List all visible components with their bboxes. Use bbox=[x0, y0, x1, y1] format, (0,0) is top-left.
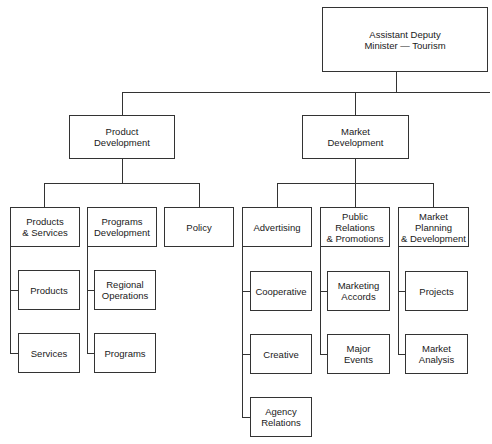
node-market-planning: Market Planning & Development bbox=[398, 207, 469, 247]
node-marketing-accords: Marketing Accords bbox=[327, 271, 390, 311]
connector bbox=[87, 247, 88, 353]
connector bbox=[242, 247, 243, 417]
connector bbox=[44, 183, 199, 184]
node-market-analysis: Market Analysis bbox=[405, 334, 468, 374]
connector bbox=[242, 417, 250, 418]
node-market-development: Market Development bbox=[302, 115, 409, 159]
connector bbox=[44, 183, 45, 207]
connector bbox=[242, 291, 250, 292]
connector bbox=[398, 291, 405, 292]
connector bbox=[355, 92, 356, 115]
connector bbox=[10, 247, 11, 353]
connector bbox=[122, 159, 123, 183]
node-services: Services bbox=[18, 333, 80, 373]
node-cooperative: Cooperative bbox=[250, 271, 312, 311]
node-projects: Projects bbox=[405, 271, 468, 311]
node-policy: Policy bbox=[164, 207, 234, 247]
node-major-events: Major Events bbox=[327, 334, 390, 374]
connector bbox=[320, 354, 327, 355]
connector bbox=[87, 353, 94, 354]
connector bbox=[320, 247, 321, 354]
node-products-services: Products & Services bbox=[10, 207, 80, 247]
connector bbox=[122, 92, 490, 93]
connector bbox=[320, 291, 327, 292]
connector bbox=[277, 183, 278, 207]
node-agency-relations: Agency Relations bbox=[250, 397, 312, 437]
connector bbox=[398, 247, 399, 354]
connector bbox=[242, 354, 250, 355]
connector bbox=[122, 92, 123, 115]
connector bbox=[433, 183, 434, 207]
connector bbox=[398, 354, 405, 355]
node-product-development: Product Development bbox=[69, 115, 175, 159]
node-advertising: Advertising bbox=[242, 207, 312, 247]
node-programs-development: Programs Development bbox=[87, 207, 157, 247]
connector bbox=[277, 183, 433, 184]
node-programs: Programs bbox=[94, 333, 156, 373]
connector bbox=[87, 290, 94, 291]
connector bbox=[199, 183, 200, 207]
node-regional-operations: Regional Operations bbox=[94, 270, 156, 310]
node-public-relations: Public Relations & Promotions bbox=[320, 207, 390, 247]
connector bbox=[10, 353, 18, 354]
connector bbox=[396, 72, 397, 92]
node-products: Products bbox=[18, 270, 80, 310]
node-assistant-deputy-minister: Assistant Deputy Minister — Tourism bbox=[322, 7, 488, 72]
connector bbox=[10, 290, 18, 291]
node-creative: Creative bbox=[250, 334, 312, 374]
